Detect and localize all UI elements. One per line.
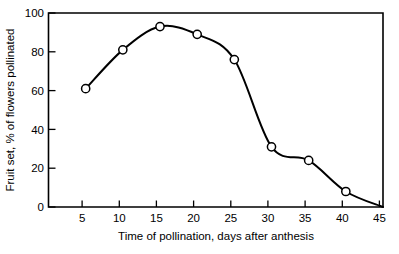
- x-tick-label-25: 25: [224, 212, 237, 224]
- x-tick-label-30: 30: [262, 212, 275, 224]
- x-tick-labels: 5 10 15 20 25 30 35 40 45: [79, 212, 386, 224]
- series-line: [86, 26, 383, 207]
- data-point-marker: [156, 22, 164, 30]
- data-point-marker: [193, 30, 201, 38]
- data-point-marker: [305, 156, 313, 164]
- data-point-marker: [82, 85, 90, 93]
- x-axis-title: Time of pollination, days after anthesis: [118, 230, 314, 242]
- y-tick-labels: 0 20 40 60 80 100: [25, 7, 44, 213]
- fruit-set-line-chart: 0 20 40 60 80 100 5 10 15 20 25 30 35 40…: [0, 0, 399, 254]
- data-point-marker: [267, 143, 275, 151]
- x-tick-label-20: 20: [187, 212, 200, 224]
- y-tick-label-20: 20: [31, 162, 44, 174]
- y-axis-ticks: [49, 13, 56, 207]
- x-tick-label-5: 5: [79, 212, 85, 224]
- data-point-marker: [230, 55, 238, 63]
- x-tick-label-10: 10: [113, 212, 126, 224]
- x-tick-label-40: 40: [336, 212, 349, 224]
- data-point-marker: [342, 187, 350, 195]
- chart-figure: 0 20 40 60 80 100 5 10 15 20 25 30 35 40…: [0, 0, 399, 254]
- y-tick-label-100: 100: [25, 7, 44, 19]
- y-tick-label-0: 0: [38, 201, 44, 213]
- data-point-marker: [119, 46, 127, 54]
- x-tick-label-35: 35: [299, 212, 312, 224]
- y-axis-title: Fruit set, % of flowers pollinated: [4, 29, 16, 192]
- x-axis-ticks: [82, 201, 379, 208]
- x-tick-label-45: 45: [373, 212, 386, 224]
- y-tick-label-80: 80: [31, 46, 44, 58]
- series-markers: [82, 22, 350, 195]
- data-series-fruit-set: [82, 22, 383, 207]
- x-tick-label-15: 15: [150, 212, 163, 224]
- y-tick-label-60: 60: [31, 85, 44, 97]
- y-tick-label-40: 40: [31, 124, 44, 136]
